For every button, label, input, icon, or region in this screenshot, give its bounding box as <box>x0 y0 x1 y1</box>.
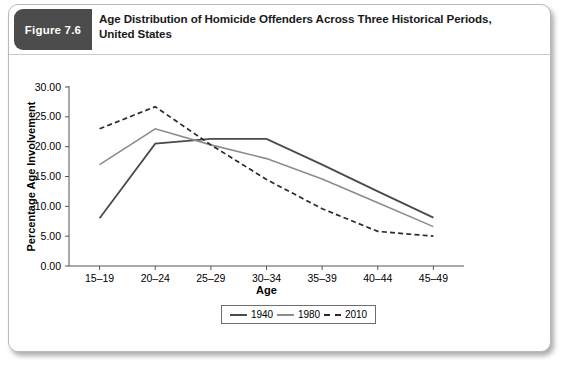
figure-title: Age Distribution of Homicide Offenders A… <box>99 11 539 41</box>
x-tick-label: 40–44 <box>363 272 392 284</box>
y-axis: 0.005.0010.0015.0020.0025.0030.00 <box>35 81 69 272</box>
chart-plot-area: 0.005.0010.0015.0020.0025.0030.00 15–192… <box>9 56 550 351</box>
y-tick-label: 0.00 <box>41 260 62 272</box>
x-axis: 15–1920–2425–2930–3435–3940–4445–49 <box>69 266 464 284</box>
figure-number-badge: Figure 7.6 <box>14 9 92 50</box>
legend-label-2010: 2010 <box>345 309 367 320</box>
y-tick-label: 5.00 <box>41 230 62 242</box>
figure-title-line-1: Age Distribution of Homicide Offenders A… <box>99 12 492 25</box>
legend-swatch-2010 <box>324 314 341 316</box>
x-tick-label: 35–39 <box>308 272 337 284</box>
x-tick-label: 45–49 <box>419 272 448 284</box>
legend-swatch-1980 <box>277 314 294 316</box>
legend-item-2: 2010 <box>324 309 367 320</box>
y-tick-label: 20.00 <box>35 140 61 152</box>
legend-item-0: 1940 <box>230 309 273 320</box>
x-tick-label: 20–24 <box>141 272 170 284</box>
x-tick-label: 15–19 <box>85 272 114 284</box>
legend-label-1980: 1980 <box>298 309 320 320</box>
x-axis-title: Age <box>256 284 277 296</box>
y-axis-title: Percentage Age Involvement <box>25 101 37 251</box>
chart-legend: 1940 1980 2010 <box>221 305 376 324</box>
legend-item-1: 1980 <box>277 309 320 320</box>
x-tick-label: 25–29 <box>196 272 225 284</box>
y-tick-label: 15.00 <box>35 170 61 182</box>
y-tick-label: 25.00 <box>35 110 61 122</box>
figure-header: Figure 7.6 Age Distribution of Homicide … <box>9 5 550 55</box>
figure-card: Figure 7.6 Age Distribution of Homicide … <box>8 4 551 352</box>
legend-swatch-1940 <box>230 314 247 316</box>
figure-title-line-2: United States <box>99 27 172 40</box>
y-tick-label: 10.00 <box>35 200 61 212</box>
legend-label-1940: 1940 <box>251 309 273 320</box>
x-tick-label: 30–34 <box>252 272 281 284</box>
series-line-1980 <box>100 129 434 227</box>
chart-series-group <box>100 107 434 236</box>
series-line-2010 <box>100 107 434 236</box>
y-tick-label: 30.00 <box>35 81 61 93</box>
